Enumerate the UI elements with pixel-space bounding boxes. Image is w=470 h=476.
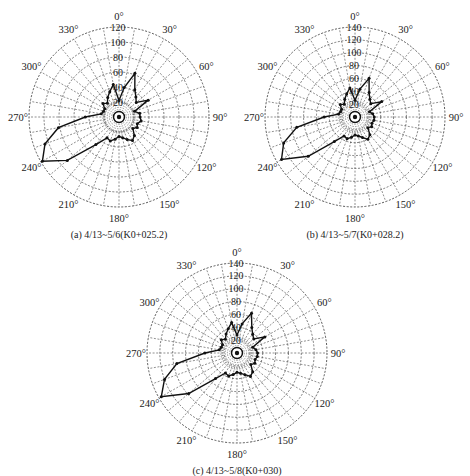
data-point (307, 155, 310, 158)
angle-tick-label: 90° (213, 112, 228, 123)
grid-spoke (364, 128, 413, 186)
data-point (133, 110, 136, 113)
data-point (133, 134, 136, 137)
grid-spoke (367, 72, 433, 110)
angle-tick-label: 120° (314, 398, 334, 409)
data-point (368, 98, 371, 101)
data-point (372, 119, 375, 122)
angle-tick-label: 30° (280, 260, 295, 271)
grid-spoke (249, 308, 315, 346)
angle-tick-label: 330° (59, 24, 79, 35)
angle-tick-label: 0° (232, 247, 241, 258)
angle-tick-label: 330° (295, 24, 315, 35)
data-point (103, 107, 106, 110)
radial-tick-label: 40 (113, 82, 123, 93)
radial-tick-label: 120 (229, 270, 244, 281)
data-point (251, 333, 254, 336)
data-point (366, 126, 369, 129)
data-point (43, 142, 46, 145)
data-point (187, 392, 190, 395)
grid-spoke (242, 366, 268, 437)
data-point (256, 355, 259, 358)
polar-chart-a: 204060801001200°30°60°90°120°150°180°210… (8, 11, 227, 224)
data-point (323, 116, 326, 119)
radial-tick-label: 80 (231, 296, 241, 307)
data-point (343, 103, 346, 106)
data-point (139, 116, 142, 119)
angle-tick-label: 150° (160, 199, 180, 210)
data-point (147, 99, 150, 102)
data-point (252, 337, 255, 340)
angle-tick-label: 300° (140, 297, 160, 308)
grid-spoke (244, 275, 282, 341)
polar-chart-b: 204060801001201400°30°60°90°120°150°180°… (244, 11, 463, 224)
radial-tick-label: 140 (347, 22, 362, 33)
data-point (133, 88, 136, 91)
data-series-line (161, 313, 264, 397)
radial-tick-label: 40 (231, 322, 241, 333)
data-point (368, 91, 371, 94)
grid-spoke (324, 130, 350, 201)
data-point (133, 72, 136, 75)
data-point (254, 348, 257, 351)
angle-tick-label: 180° (345, 213, 365, 224)
radial-tick-label: 20 (349, 99, 359, 110)
data-point (251, 370, 254, 373)
angle-tick-label: 300° (258, 61, 278, 72)
data-point (354, 134, 357, 137)
radial-tick-label: 100 (111, 37, 126, 48)
angle-tick-label: 180° (109, 213, 129, 224)
grid-spoke (368, 122, 439, 148)
data-point (340, 108, 343, 111)
radial-tick-label: 60 (113, 67, 123, 78)
data-point (343, 134, 346, 137)
data-point (227, 374, 230, 377)
chart-caption-c: (c) 4/13~5/8(K0+030) (192, 465, 281, 476)
center-dot (235, 351, 239, 355)
data-point (140, 119, 143, 122)
data-point (220, 346, 223, 349)
data-point (369, 102, 372, 105)
angle-tick-label: 240° (22, 162, 42, 173)
data-point (57, 126, 60, 129)
data-point (203, 352, 206, 355)
data-point (106, 96, 109, 99)
angle-tick-label: 0° (350, 11, 359, 22)
data-point (232, 373, 235, 376)
data-point (350, 136, 353, 139)
grid-spoke (360, 130, 386, 201)
angle-tick-label: 60° (199, 61, 214, 72)
grid-spoke (132, 86, 203, 112)
data-point (346, 137, 349, 140)
center-dot (353, 115, 357, 119)
data-point (163, 378, 166, 381)
data-point (366, 138, 369, 141)
angle-tick-label: 150° (278, 435, 298, 446)
angle-tick-label: 240° (258, 162, 278, 173)
data-point (218, 348, 221, 351)
angle-tick-label: 270° (126, 348, 146, 359)
data-point (94, 143, 97, 146)
data-point (370, 125, 373, 128)
data-point (250, 326, 253, 329)
data-point (106, 136, 109, 139)
data-point (224, 372, 227, 375)
radial-tick-label: 60 (349, 73, 359, 84)
radial-tick-label: 100 (229, 283, 244, 294)
data-point (225, 333, 228, 336)
data-point (214, 377, 217, 380)
radial-tick-label: 80 (113, 52, 123, 63)
grid-spoke (270, 86, 341, 112)
grid-spoke (130, 59, 188, 108)
data-point (160, 395, 163, 398)
angle-tick-label: 60° (317, 297, 332, 308)
data-point (333, 140, 336, 143)
data-point (102, 110, 105, 113)
data-point (101, 102, 104, 105)
radial-tick-label: 20 (231, 335, 241, 346)
data-point (131, 127, 134, 130)
data-point (121, 136, 124, 139)
angle-tick-label: 120° (196, 162, 216, 173)
angle-tick-label: 60° (435, 61, 450, 72)
data-point (126, 138, 129, 141)
